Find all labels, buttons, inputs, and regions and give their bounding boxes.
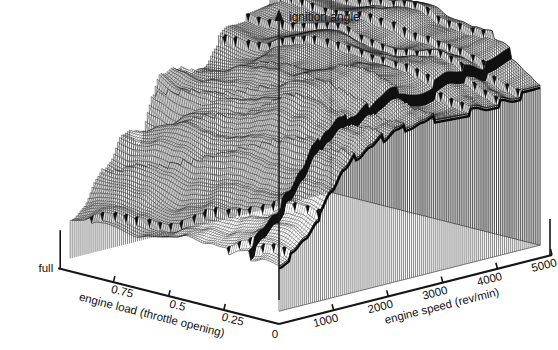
x-tick-label: 4000 (476, 270, 504, 288)
up-arrow-icon (274, 9, 283, 21)
x-axis-tick-labels: 10002000300040005000 (312, 256, 558, 329)
origin-label-group: 0 (272, 328, 278, 340)
y-tick-label: 0.5 (168, 297, 186, 313)
x-tick-label: 5000 (530, 256, 558, 274)
axis-labels-layer: ignition angle 0 10002000300040005000 0.… (0, 0, 558, 350)
y-tick-label-full: full (38, 262, 53, 274)
z-axis-group: ignition angle (274, 9, 360, 300)
origin-tick-label: 0 (272, 328, 278, 340)
y-tick-label: 0.75 (110, 283, 135, 300)
x-tick-label: 1000 (312, 311, 340, 329)
y-axis-title: engine load (throttle opening) (78, 291, 226, 339)
surface-plot-figure: ignition angle 0 10002000300040005000 0.… (0, 0, 558, 350)
z-axis-title: ignition angle (289, 10, 360, 24)
y-tick-label: 0.25 (220, 311, 245, 328)
